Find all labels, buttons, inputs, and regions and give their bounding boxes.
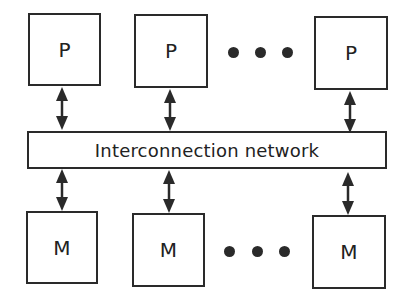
bidirectional-arrow-icon	[56, 169, 68, 211]
connection-arrows	[0, 0, 405, 304]
bidirectional-arrow-icon	[342, 172, 354, 215]
bidirectional-arrow-icon	[344, 91, 356, 133]
bidirectional-arrow-icon	[164, 89, 176, 131]
bidirectional-arrow-icon	[163, 170, 175, 213]
bidirectional-arrow-icon	[56, 87, 68, 130]
